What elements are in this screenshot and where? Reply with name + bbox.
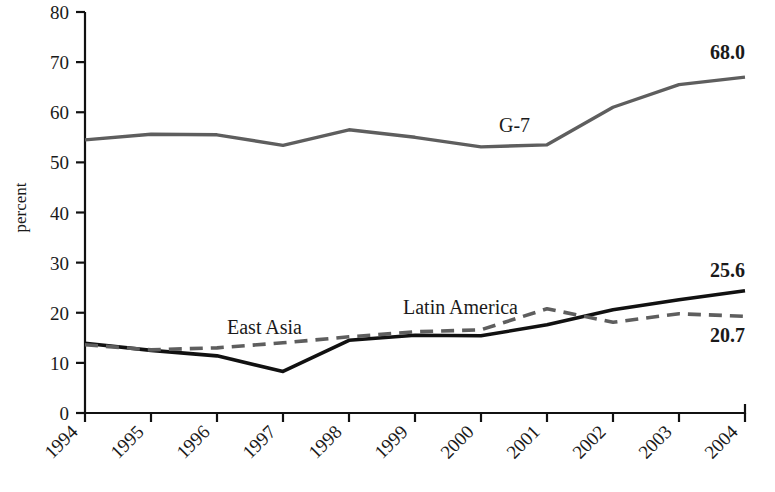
- y-axis-title: percent: [11, 182, 30, 232]
- y-tick-label: 80: [50, 2, 69, 23]
- y-tick-label: 50: [50, 152, 69, 173]
- y-tick-label: 10: [50, 353, 69, 374]
- x-tick-label: 1998: [304, 421, 346, 463]
- chart-axes: 01020304050607080percent1994199519961997…: [11, 2, 745, 463]
- x-tick-label: 1995: [106, 421, 148, 463]
- y-tick-label: 20: [50, 303, 69, 324]
- y-tick-label: 0: [60, 403, 70, 424]
- latin-america-end-value-label: 20.7: [710, 324, 745, 346]
- east-asia-end-value-label: 25.6: [710, 259, 745, 281]
- x-tick-label: 1997: [238, 421, 280, 463]
- y-tick-label: 70: [50, 52, 69, 73]
- x-tick-label: 2002: [568, 421, 610, 463]
- line-chart-canvas: 01020304050607080percent1994199519961997…: [0, 0, 775, 492]
- y-tick-label: 30: [50, 253, 69, 274]
- east-asia-series-label: East Asia: [227, 316, 302, 338]
- x-tick-label: 2001: [502, 421, 544, 463]
- x-tick-label: 1996: [172, 421, 214, 463]
- series-line-g-7: [85, 77, 745, 147]
- x-tick-label: 2003: [634, 421, 676, 463]
- x-tick-label: 1999: [370, 421, 412, 463]
- x-tick-label: 1994: [40, 421, 82, 463]
- x-tick-label: 2004: [700, 421, 742, 463]
- y-tick-label: 60: [50, 102, 69, 123]
- x-tick-label: 2000: [436, 421, 478, 463]
- chart-series: [85, 77, 745, 371]
- latin-america-series-label: Latin America: [403, 296, 518, 318]
- y-tick-label: 40: [50, 203, 69, 224]
- chart-figure: 01020304050607080percent1994199519961997…: [0, 0, 775, 492]
- g7-series-label: G-7: [499, 114, 530, 136]
- g7-end-value-label: 68.0: [710, 41, 745, 63]
